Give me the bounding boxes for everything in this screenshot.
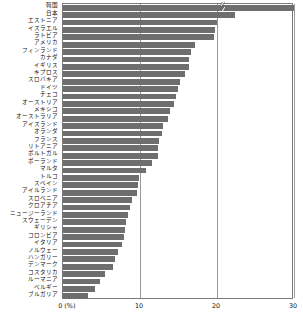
category-label: イタリア — [0, 240, 60, 246]
x-tick-label: 10 — [135, 302, 143, 310]
category-label: スペイン — [0, 181, 60, 187]
category-label: デンマーク — [0, 262, 60, 268]
category-label: フィンランド — [0, 48, 60, 54]
x-axis: 0 (%)102030 — [0, 300, 303, 319]
category-label: イギリス — [0, 63, 60, 69]
category-label: スロバキア — [0, 77, 60, 83]
category-label: トルコ — [0, 174, 60, 180]
category-label: アイルランド — [0, 188, 60, 194]
category-label: カナダ — [0, 55, 60, 61]
x-tick-label: 30 — [289, 302, 297, 310]
category-label: オーストラリア — [0, 114, 60, 120]
bar-chart: 韓国日本エストニアイスラエルラトビアアメリカフィンランドカナダイギリスキプロスス… — [0, 0, 303, 319]
category-label: メキシコ — [0, 107, 60, 113]
category-label: キプロス — [0, 70, 60, 76]
category-label: オランダ — [0, 129, 60, 135]
category-label: オーストリア — [0, 100, 60, 106]
category-label: ポーランド — [0, 159, 60, 165]
category-labels: 韓国日本エストニアイスラエルラトビアアメリカフィンランドカナダイギリスキプロスス… — [0, 3, 303, 299]
category-label: ニュージーランド — [0, 211, 60, 217]
category-label: ハンガリー — [0, 255, 60, 261]
category-label: ポルトガル — [0, 151, 60, 157]
category-label: クロアチア — [0, 203, 60, 209]
category-label: フランス — [0, 137, 60, 143]
x-tick-label: 20 — [212, 302, 220, 310]
category-label: アイスランド — [0, 122, 60, 128]
category-label: コロンビア — [0, 233, 60, 239]
category-label: スロベニア — [0, 196, 60, 202]
category-label: チェコ — [0, 92, 60, 98]
category-label: ドイツ — [0, 85, 60, 91]
category-label: ラトビア — [0, 33, 60, 39]
category-label: イスラエル — [0, 26, 60, 32]
category-label: 韓国 — [0, 3, 60, 9]
category-label: 日本 — [0, 11, 60, 17]
category-label: ノルウェー — [0, 248, 60, 254]
category-label: マルタ — [0, 166, 60, 172]
x-tick-label: 0 (%) — [58, 302, 75, 310]
category-label: アメリカ — [0, 40, 60, 46]
category-label: リトアニア — [0, 144, 60, 150]
category-label: コスタリカ — [0, 270, 60, 276]
category-label: エストニア — [0, 18, 60, 24]
category-label: スウェーデン — [0, 218, 60, 224]
category-label: ルーマニア — [0, 277, 60, 283]
category-label: ブルガリア — [0, 292, 60, 298]
category-label: ベルギー — [0, 285, 60, 291]
category-label: ギリシャ — [0, 225, 60, 231]
